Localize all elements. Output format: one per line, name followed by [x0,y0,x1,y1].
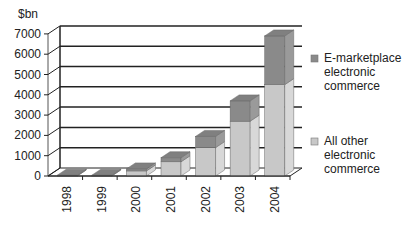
x-tick-label: 2002 [199,186,213,213]
y-axis-ticks: 01000200030004000500060007000 [14,27,48,183]
bar-segment-front [126,171,146,176]
y-tick-label: 2000 [14,128,41,142]
x-tick-label: 2000 [129,186,143,213]
legend: E-marketplaceelectroniccommerceAll other… [311,51,402,176]
y-tick-label: 3000 [14,108,41,122]
y-tick-label: 1000 [14,149,41,163]
bar-segment-front [230,121,250,176]
bar-2002 [196,130,225,176]
bar-segment-front [230,101,250,121]
y-tick-label: 6000 [14,47,41,61]
gridline-diagonal [48,67,60,75]
legend-label: All other [324,134,368,148]
gridline-diagonal [48,107,60,115]
x-tick-label: 2004 [268,186,282,213]
bar-segment-front [126,169,146,171]
bar-segment-side [285,79,294,176]
bar-segment-front [196,148,216,176]
legend-item: All otherelectroniccommerce [311,134,380,176]
gridline-diagonal [48,127,60,135]
bar-2004 [265,30,294,176]
gridline-diagonal [48,87,60,95]
y-tick-label: 4000 [14,88,41,102]
gridline-diagonal [48,148,60,156]
bar-segment-side [250,115,259,176]
bar-segment-front [265,85,285,176]
stacked-3d-bar-chart: $bn 01000200030004000500060007000 199819… [0,0,411,226]
y-tick-label: 0 [34,169,41,183]
y-tick-label: 7000 [14,27,41,41]
y-tick-label: 5000 [14,68,41,82]
x-axis-ticks: 1998199920002001200220032004 [48,176,290,213]
bar-segment-front [161,158,181,162]
bar-segment-front [265,36,285,85]
bar-segment-front [196,136,216,147]
x-tick-label: 1998 [60,186,74,213]
gridline-diagonal [48,26,60,34]
legend-item: E-marketplaceelectroniccommerce [311,51,402,93]
gridline-diagonal [48,46,60,54]
legend-swatch-icon [311,55,318,62]
bar-2001 [161,152,190,176]
bar-segment-front [161,162,181,176]
legend-label: electronic [324,65,375,79]
legend-label: E-marketplace [324,51,402,65]
bar-2003 [230,95,259,176]
bar-segment-side [285,30,294,85]
x-tick-label: 2003 [233,186,247,213]
x-tick-label: 1999 [95,186,109,213]
y-axis-unit-label: $bn [18,7,38,21]
legend-swatch-icon [311,138,318,145]
legend-label: commerce [324,162,380,176]
legend-label: commerce [324,79,380,93]
x-tick-label: 2001 [164,186,178,213]
legend-label: electronic [324,148,375,162]
